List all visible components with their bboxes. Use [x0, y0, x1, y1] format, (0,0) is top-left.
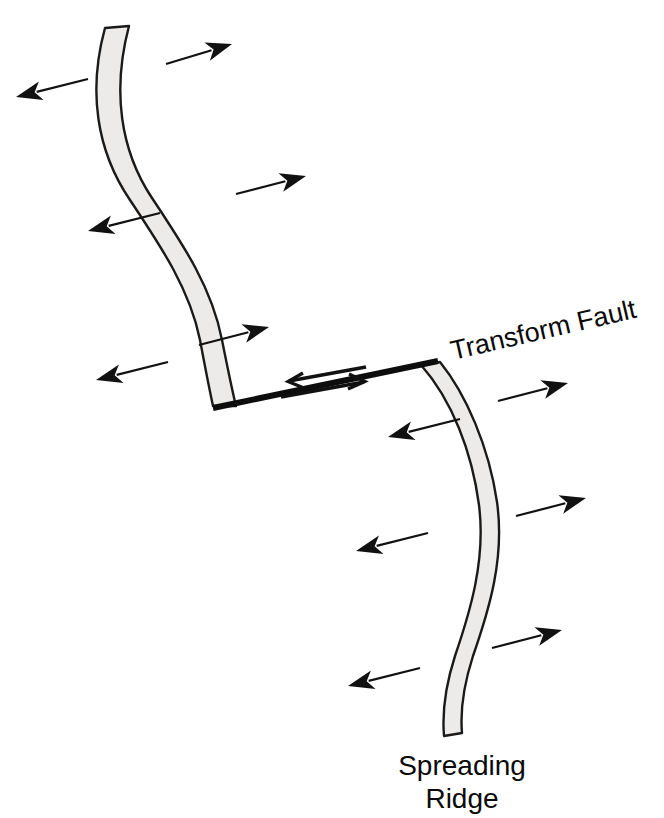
spreading-ridge-label-line1: Spreading — [398, 750, 526, 781]
transform-fault-diagram: Transform Fault Spreading Ridge — [0, 0, 664, 818]
diagram-canvas: Transform Fault Spreading Ridge — [0, 0, 664, 818]
spreading-ridge-label-line2: Ridge — [425, 783, 498, 814]
